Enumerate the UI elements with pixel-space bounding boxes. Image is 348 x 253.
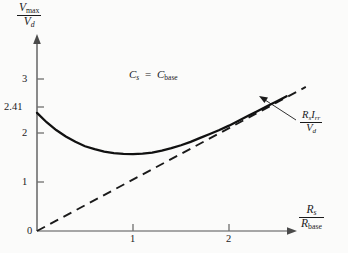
y-axis-label-numerator: V [19,1,26,13]
y-axis-ticks [37,79,44,182]
y-tick-label-2-41: 2.41 [4,101,22,112]
y-axis-label-numerator-sub: max [26,6,39,15]
asymptote-denominator-v-sub: d [313,127,317,135]
asymptote-numerator-i-sub: rr [315,114,321,122]
condition-equals: = [142,68,154,80]
y-axis-label: Vmax Vd [17,2,41,29]
x-axis-label-denominator: R [301,217,308,229]
asymptote-annotation: RsIrr Vd [300,110,322,135]
figure-container: 1 2 2.41 3 0 1 2 Vmax Vd Rs Rbase Cs = C… [0,0,348,253]
condition-lhs-sub: s [136,73,139,82]
x-axis [37,227,297,235]
y-tick-label-2: 2 [22,127,27,138]
y-tick-label-1: 1 [22,176,27,187]
condition-annotation: Cs = Cbase [129,68,178,82]
y-axis-label-denominator-sub: d [31,20,35,29]
x-axis-label-numerator-sub: s [313,208,316,217]
x-axis-label-denominator-sub: base [308,222,322,231]
chart-canvas [0,0,348,253]
x-tick-label-1: 1 [130,233,135,244]
x-axis-ticks [133,224,229,231]
x-tick-label-2: 2 [226,233,231,244]
x-axis-label: Rs Rbase [299,204,324,231]
asymptote-dashed-line [37,87,306,231]
vmax-curve [37,96,287,154]
y-axis-label-denominator: V [24,15,31,27]
y-tick-label-3: 3 [22,73,27,84]
origin-label: 0 [27,225,32,236]
condition-rhs-sub: base [164,73,177,82]
